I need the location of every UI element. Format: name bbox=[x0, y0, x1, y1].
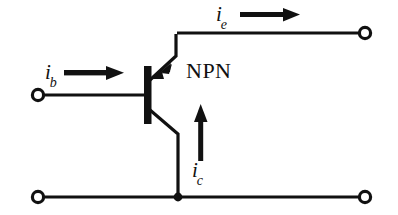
transistor-base-bar bbox=[144, 66, 152, 124]
circuit-diagram-figure: ib ie ic NPN bbox=[0, 0, 398, 215]
emitter-current-label: ie bbox=[216, 4, 228, 29]
npn-device-label: NPN bbox=[186, 60, 232, 82]
collector-junction-dot bbox=[174, 193, 183, 202]
base-current-subscript: b bbox=[50, 75, 57, 90]
emitter-current-subscript: e bbox=[221, 17, 227, 32]
base-current-arrow-icon bbox=[64, 66, 124, 80]
base-terminal-node[interactable] bbox=[32, 89, 43, 100]
base-current-label: ib bbox=[45, 62, 58, 87]
collector-current-arrow-icon bbox=[194, 104, 208, 161]
collector-current-subscript: c bbox=[197, 173, 203, 188]
collector-current-label: ic bbox=[192, 160, 204, 185]
emitter-current-arrow-icon bbox=[240, 8, 300, 22]
bottom-left-terminal-node[interactable] bbox=[32, 191, 43, 202]
emitter-terminal-node[interactable] bbox=[359, 27, 370, 38]
collector-leg-wire bbox=[150, 110, 178, 196]
bottom-right-terminal-node[interactable] bbox=[359, 191, 370, 202]
